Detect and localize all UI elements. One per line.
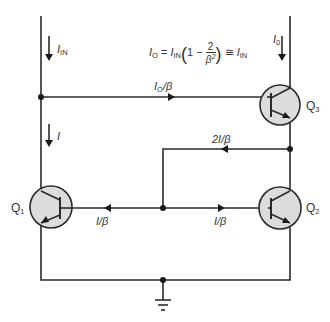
arrow-right-icon xyxy=(218,204,225,212)
ground-icon xyxy=(155,300,171,310)
label-iin: IIN xyxy=(57,44,68,57)
arrow-down-icon xyxy=(45,124,53,147)
junction-dot xyxy=(160,205,166,211)
label-q1: Q1 xyxy=(11,202,25,216)
transistor-q2 xyxy=(259,187,301,229)
transistor-q1 xyxy=(30,186,73,228)
label-io: I0 xyxy=(273,34,280,47)
arrow-right-icon xyxy=(168,93,175,101)
transistor-q3 xyxy=(260,85,300,125)
junction-dot xyxy=(160,277,166,283)
arrow-left-icon xyxy=(221,145,228,153)
junction-dot xyxy=(38,94,44,100)
arrow-left-icon xyxy=(104,204,111,212)
junction-dot xyxy=(287,146,293,152)
equation: IO = IIN(1 − 2β2) ≅ IIN xyxy=(149,42,247,65)
circuit-diagram: IIN I I0 IO/β 2I/β I/β I/β Q3 Q2 Q1 IO =… xyxy=(0,0,330,322)
label-i-beta-right: I/β xyxy=(214,216,226,227)
wire-bottom-ground xyxy=(41,222,290,280)
label-i-beta-left: I/β xyxy=(96,216,108,227)
label-q2: Q2 xyxy=(306,202,320,216)
label-i: I xyxy=(57,131,60,142)
arrow-down-icon xyxy=(45,36,53,61)
label-2i-beta: 2I/β xyxy=(212,134,231,145)
label-io-beta: IO/β xyxy=(154,81,172,94)
label-q3: Q3 xyxy=(306,100,320,114)
